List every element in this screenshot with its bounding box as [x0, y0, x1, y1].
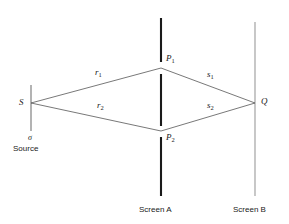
source-caption-label: Source [13, 145, 38, 153]
ray-r2-label: r2 [97, 101, 104, 110]
ray-r2-subscript: 2 [101, 104, 104, 111]
observation-point-label: Q [261, 97, 268, 106]
ray-s2-label: s2 [207, 101, 214, 110]
ray-r1-subscript: 1 [99, 71, 102, 78]
slit-top-label: P1 [166, 54, 175, 63]
diagram-canvas [0, 0, 289, 224]
slit-top-subscript: 1 [172, 57, 175, 64]
ray-s2-subscript: 2 [211, 104, 214, 111]
screen-a-caption-label: Screen A [139, 206, 171, 214]
screen-b-caption-label: Screen B [233, 206, 266, 214]
source-point-label: S [19, 98, 24, 107]
ray-s1-subscript: 1 [211, 73, 214, 80]
optics-diagram-figure: S σ Source P1 P2 Q r1 r2 s1 s2 Screen A … [0, 0, 289, 224]
slit-bottom-subscript: 2 [172, 136, 175, 143]
slit-bottom-label: P2 [166, 133, 175, 142]
ray-r1-label: r1 [95, 68, 102, 77]
ray-s1-label: s1 [207, 70, 214, 79]
source-slit-sigma-label: σ [28, 134, 32, 142]
ray-r2-line [31, 103, 161, 131]
